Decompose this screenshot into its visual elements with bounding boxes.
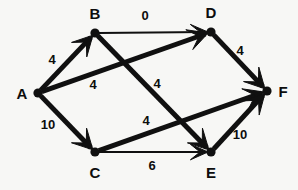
node-b[interactable]: [90, 28, 99, 37]
edge-weight-b-d: 0: [141, 8, 148, 23]
node-c[interactable]: [90, 147, 99, 156]
edge-weight-e-f: 10: [233, 127, 247, 142]
edge-weight-a-c: 10: [41, 117, 55, 132]
edge-weight-c-f: 4: [142, 113, 150, 128]
node-d[interactable]: [206, 27, 215, 36]
node-a[interactable]: [33, 88, 42, 97]
graph-canvas: 41040464410ABCDEF: [0, 0, 298, 190]
edge-weight-b-e: 4: [153, 76, 161, 91]
node-label-a: A: [17, 85, 28, 102]
node-label-d: D: [206, 4, 217, 21]
node-label-b: B: [90, 5, 101, 22]
node-f[interactable]: [262, 86, 271, 95]
edge-weight-a-d: 4: [89, 77, 97, 92]
node-e[interactable]: [206, 147, 215, 156]
edge-weight-c-e: 6: [148, 158, 155, 173]
edges-layer: [41, 24, 265, 159]
graph-figure: 41040464410ABCDEF: [0, 0, 298, 190]
edge-weight-d-f: 4: [236, 43, 244, 58]
node-label-c: C: [90, 164, 101, 181]
node-label-e: E: [206, 164, 216, 181]
edge-weight-a-b: 4: [48, 52, 56, 67]
node-label-f: F: [278, 83, 287, 100]
